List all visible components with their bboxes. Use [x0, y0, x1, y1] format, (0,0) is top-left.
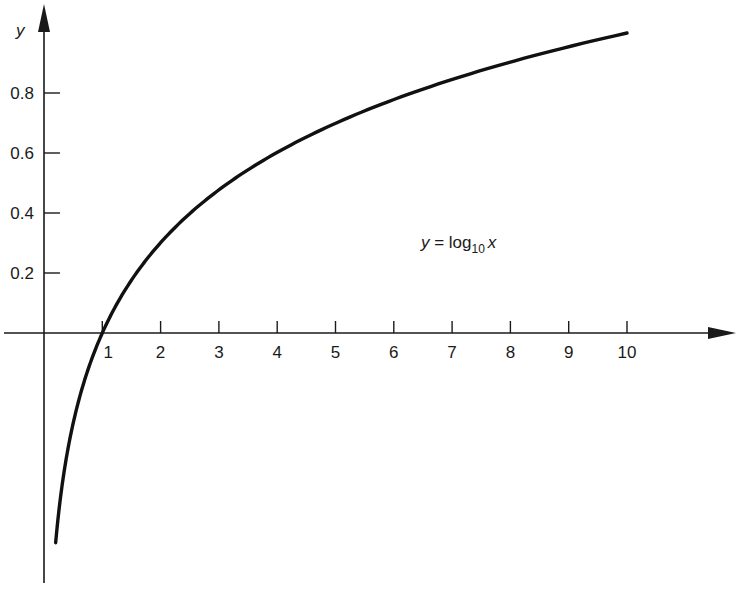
- x-tick-label: 7: [447, 343, 456, 362]
- annotation-eq: = log: [429, 233, 471, 252]
- y-ticks: 0.20.40.60.8: [10, 84, 60, 283]
- y-axis-label: y: [15, 21, 26, 40]
- x-tick-label: 2: [156, 343, 165, 362]
- x-tick-label: 9: [564, 343, 573, 362]
- y-tick-label: 0.2: [10, 264, 34, 283]
- x-tick-label: 6: [389, 343, 398, 362]
- y-axis-arrow-icon: [38, 4, 50, 32]
- x-tick-label: 5: [331, 343, 340, 362]
- x-tick-label: 3: [214, 343, 223, 362]
- x-tick-label: 8: [506, 343, 515, 362]
- x-tick-label: 4: [272, 343, 281, 362]
- annotation-subscript: 10: [472, 242, 486, 256]
- log10-curve: [56, 33, 627, 543]
- x-ticks: 12345678910: [102, 321, 636, 362]
- y-tick-label: 0.4: [10, 204, 34, 223]
- y-tick-label: 0.6: [10, 144, 34, 163]
- function-annotation: y = log10x: [420, 233, 497, 256]
- x-tick-label: 1: [104, 343, 113, 362]
- axes: y: [4, 4, 736, 583]
- annotation-x: x: [487, 233, 497, 252]
- x-tick-label: 10: [618, 343, 637, 362]
- y-tick-label: 0.8: [10, 84, 34, 103]
- log-chart: y 12345678910 0.20.40.60.8 y = log10x: [0, 0, 738, 589]
- x-axis-arrow-icon: [708, 327, 736, 339]
